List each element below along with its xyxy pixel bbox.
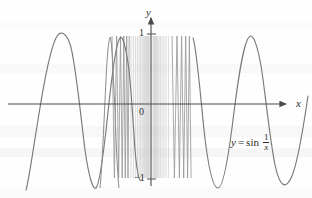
curve-sin-one-over-x <box>26 33 308 190</box>
origin-label: 0 <box>139 107 144 117</box>
plot-canvas <box>0 0 312 198</box>
equation-lhs: y <box>231 137 236 148</box>
x-axis-label: x <box>296 98 301 109</box>
equation-function: sin <box>246 137 259 148</box>
equation-equals: = <box>238 137 244 148</box>
y-tick-label-negative-one: −1 <box>134 173 145 183</box>
y-tick-label-one: 1 <box>139 28 144 38</box>
fraction-denominator: x <box>263 143 269 152</box>
dense-oscillation-region <box>131 36 169 178</box>
equation-annotation: y = sin 1 x <box>231 133 269 153</box>
equation-fraction: 1 x <box>263 133 270 153</box>
figure-sin-one-over-x: y x 1 0 −1 y = sin 1 x <box>0 0 312 198</box>
y-axis-label: y <box>146 7 151 18</box>
